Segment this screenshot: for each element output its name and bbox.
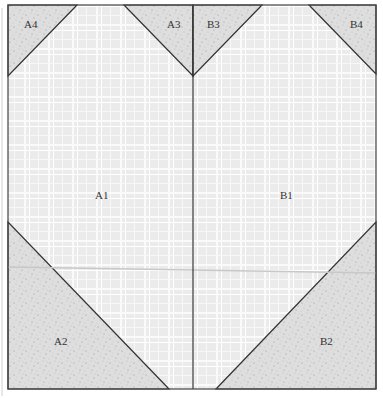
- label-A3: A3: [167, 18, 181, 30]
- label-B4: B4: [350, 18, 363, 30]
- label-B3: B3: [207, 18, 220, 30]
- label-A1: A1: [95, 189, 108, 201]
- quilt-block-diagram: A4 A3 B3 B4 A1 B1 A2 B2: [0, 0, 383, 398]
- label-B1: B1: [280, 189, 293, 201]
- label-A4: A4: [24, 18, 38, 30]
- label-A2: A2: [54, 335, 67, 347]
- label-B2: B2: [320, 335, 333, 347]
